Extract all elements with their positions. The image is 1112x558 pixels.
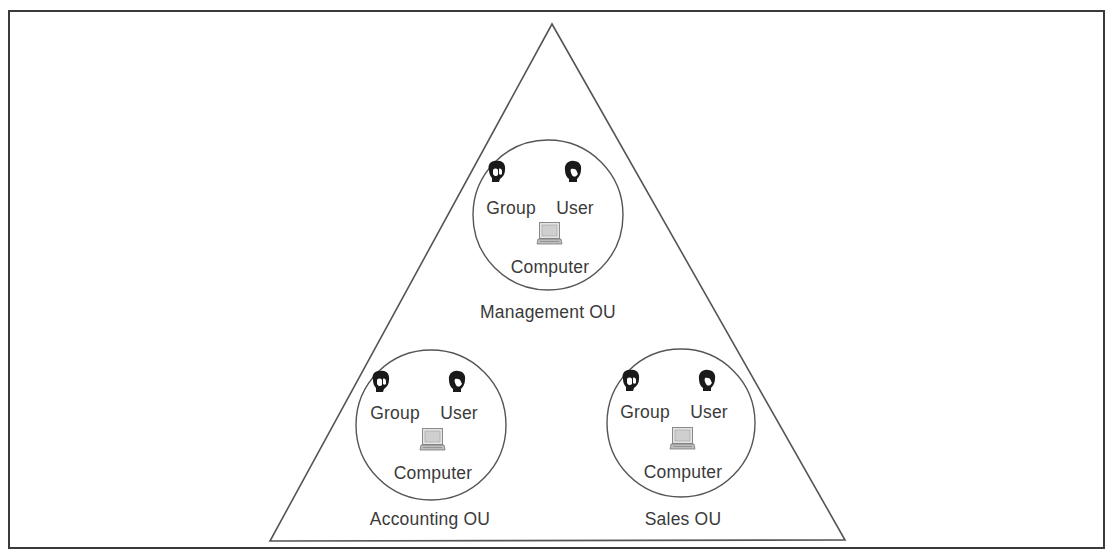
accounting-computer-label: Computer [394, 465, 472, 483]
sales-computer-label: Computer [644, 464, 722, 482]
sales-user-label: User [690, 404, 728, 422]
computer-icon [420, 429, 445, 451]
accounting-ou-label: Accounting OU [370, 511, 490, 529]
computer-icon [537, 223, 562, 245]
sales-ou-label: Sales OU [645, 511, 722, 529]
accounting-user-label: User [440, 405, 478, 423]
diagram-canvas [0, 0, 1112, 558]
computer-icon [670, 428, 695, 450]
management-user-label: User [556, 200, 594, 218]
management-ou-label: Management OU [480, 304, 616, 322]
management-computer-label: Computer [511, 259, 589, 277]
management-group-label: Group [486, 200, 536, 218]
accounting-group-label: Group [370, 405, 420, 423]
sales-group-label: Group [620, 404, 670, 422]
